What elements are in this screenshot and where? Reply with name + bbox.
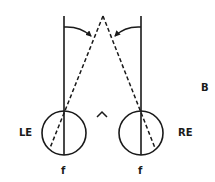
- left-eye-label: LE: [19, 128, 32, 138]
- right-dashed-line-of-sight: [103, 16, 155, 148]
- right-eye-label: RE: [178, 128, 193, 138]
- right-rotation-arrow-icon: [115, 27, 141, 36]
- left-fovea-label: f: [61, 166, 65, 176]
- panel-label: B: [201, 83, 209, 93]
- left-rotation-arrow-icon: [64, 27, 91, 36]
- binocular-vision-diagram: [0, 0, 215, 182]
- left-dashed-line-of-sight: [50, 16, 103, 148]
- right-fovea-label: f: [138, 166, 142, 176]
- center-caret-icon: [97, 112, 107, 117]
